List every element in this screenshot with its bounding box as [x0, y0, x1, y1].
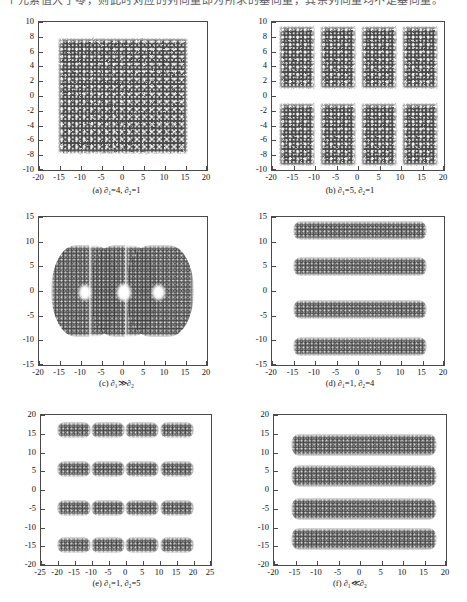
x-tick-mark — [177, 561, 178, 565]
y-axis-tick-label: 10 — [5, 236, 34, 246]
x-tick-mark — [144, 361, 145, 365]
cluster-feather-edge — [361, 103, 397, 165]
x-tick-mark — [382, 561, 383, 565]
panel-caption-e: (e) ∂₁=1, ∂₂=5 — [0, 578, 233, 588]
x-axis-tick-label: -10 — [85, 567, 96, 577]
plot-inner-e — [41, 415, 211, 565]
x-tick-mark — [39, 166, 40, 170]
y-tick-mark — [39, 66, 43, 67]
point-cluster — [57, 461, 91, 478]
y-axis-tick-label: 4 — [5, 60, 34, 70]
x-tick-mark — [358, 361, 359, 365]
x-axis-tick-label: 10 — [396, 172, 405, 182]
x-axis-tick-label: 20 — [439, 367, 448, 377]
y-tick-mark — [272, 52, 276, 53]
point-cluster — [57, 422, 91, 439]
x-tick-mark — [58, 561, 59, 565]
cluster-feather-edge — [125, 422, 159, 439]
x-axis-tick-label: -25 — [34, 567, 45, 577]
y-axis-tick-label: 10 — [240, 447, 269, 457]
x-axis-tick-label: 0 — [123, 567, 127, 577]
x-axis-tick-label: -15 — [53, 172, 64, 182]
y-axis-tick-label: 15 — [7, 428, 36, 438]
y-tick-mark — [274, 490, 278, 491]
x-tick-mark — [274, 561, 275, 565]
x-axis-tick-label: -5 — [332, 172, 339, 182]
x-tick-mark — [109, 561, 110, 565]
y-tick-mark — [39, 155, 43, 156]
y-tick-mark — [274, 509, 278, 510]
x-axis-tick-label: -5 — [104, 567, 111, 577]
y-axis-tick-label: 20 — [7, 409, 36, 419]
cluster-feather-edge — [320, 103, 356, 165]
y-axis-tick-label: 5 — [5, 260, 34, 270]
x-tick-mark — [315, 166, 316, 170]
y-axis-tick-label: 4 — [238, 60, 267, 70]
y-tick-mark — [272, 126, 276, 127]
point-cluster — [291, 465, 437, 487]
x-tick-mark — [165, 361, 166, 365]
cluster-feather-edge — [293, 221, 427, 240]
x-axis-tick-label: 10 — [398, 567, 407, 577]
plot-inner-f — [274, 415, 446, 565]
y-axis-tick-label: -10 — [5, 164, 34, 174]
x-axis-tick-label: 0 — [357, 567, 361, 577]
x-axis-tick-label: -5 — [334, 567, 341, 577]
y-tick-mark — [39, 111, 43, 112]
y-tick-mark — [39, 340, 43, 341]
y-axis-tick-label: 15 — [240, 428, 269, 438]
y-tick-mark — [274, 546, 278, 547]
y-tick-mark — [41, 434, 45, 435]
y-axis-tick-label: -15 — [238, 359, 267, 369]
x-tick-mark — [294, 166, 295, 170]
cluster-feather-edge — [402, 26, 438, 88]
chart-panel-c: 151050-5-10-15-20-15-10-505101520(c) ∂₁≫… — [0, 206, 233, 402]
plot-inner-d — [272, 217, 444, 365]
y-axis-tick-label: 2 — [238, 75, 267, 85]
x-tick-mark — [443, 361, 444, 365]
y-tick-mark — [41, 490, 45, 491]
x-tick-mark — [317, 561, 318, 565]
x-tick-mark — [337, 166, 338, 170]
x-axis-tick-label: 25 — [206, 567, 215, 577]
cluster-void — [152, 285, 165, 300]
cluster-feather-edge — [57, 537, 91, 554]
x-tick-mark — [423, 361, 424, 365]
x-tick-mark — [358, 166, 359, 170]
point-cluster — [402, 26, 438, 88]
x-axis-tick-label: 15 — [417, 172, 426, 182]
x-tick-mark — [60, 166, 61, 170]
y-tick-mark — [41, 415, 45, 416]
x-axis-tick-label: 5 — [140, 567, 144, 577]
x-axis-tick-label: 15 — [181, 367, 190, 377]
x-axis-tick-label: -15 — [53, 367, 64, 377]
y-tick-mark — [39, 291, 43, 292]
point-cluster — [293, 337, 427, 356]
y-tick-mark — [272, 266, 276, 267]
y-tick-mark — [272, 155, 276, 156]
point-cluster — [402, 103, 438, 165]
cluster-feather-edge — [291, 465, 437, 487]
cluster-feather-edge — [125, 537, 159, 554]
y-axis-tick-label: -6 — [5, 134, 34, 144]
cluster-feather-edge — [160, 461, 194, 478]
y-axis-tick-label: -10 — [240, 522, 269, 532]
y-axis-tick-label: 15 — [238, 211, 267, 221]
x-tick-mark — [401, 361, 402, 365]
y-axis-tick-label: -5 — [238, 310, 267, 320]
y-axis-tick-label: 10 — [7, 447, 36, 457]
x-axis-tick-label: 15 — [181, 172, 190, 182]
y-axis-tick-label: 0 — [240, 484, 269, 494]
x-tick-mark — [339, 561, 340, 565]
x-axis-tick-label: 5 — [141, 367, 145, 377]
y-axis-tick-label: 10 — [238, 16, 267, 26]
x-axis-tick-label: -10 — [308, 367, 319, 377]
x-axis-tick-label: 5 — [378, 567, 382, 577]
x-tick-mark — [296, 561, 297, 565]
x-tick-mark — [294, 361, 295, 365]
point-cluster — [91, 422, 125, 439]
x-axis-tick-label: -20 — [51, 567, 62, 577]
plot-inner-c — [39, 217, 207, 365]
y-axis-tick-label: -10 — [7, 522, 36, 532]
y-tick-mark — [41, 471, 45, 472]
